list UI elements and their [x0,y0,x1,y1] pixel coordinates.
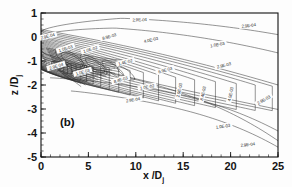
svg-text:1.4E-02: 1.4E-02 [118,58,134,66]
x-tick-label: 0 [38,160,44,172]
y-tick-label: -4 [27,127,38,139]
contour-label: 1.0E-03 [207,40,227,49]
contour-label: 4.0E-03 [141,35,161,45]
svg-text:2.9E-04: 2.9E-04 [241,22,257,29]
svg-text:4.0E-03: 4.0E-03 [143,36,159,44]
contour-label: 2.9E-04 [130,16,149,22]
svg-text:8.4E-03: 8.4E-03 [113,75,129,84]
contour-label: 2.9E-04 [238,141,258,148]
plot-frame [41,13,278,157]
svg-text:2.9E-04: 2.9E-04 [240,141,256,148]
contour-label: 1.0E-03 [213,122,233,130]
contour-label: 2.9E-04 [239,21,259,29]
x-tick-label: 15 [177,160,189,172]
svg-text:8.9E-03: 8.9E-03 [102,32,118,41]
svg-text:x /Dj: x /Dj [143,169,164,184]
y-tick-label: 0 [31,31,37,43]
y-tick-label: -1 [27,55,37,67]
contour-label: 2.9E-03 [214,60,234,70]
svg-text:z /Dj: z /Dj [8,75,23,96]
contour-line [41,28,292,56]
contour-figure: 0510152025-5-4-3-2-101x /Djz /Dj(b)2.9E-… [0,0,292,187]
contour-line [41,18,292,37]
svg-text:2.9E-03: 2.9E-03 [216,61,232,69]
contour-label: 2.9E-03 [175,80,184,100]
y-tick-label: -3 [27,103,37,115]
contour-line [41,50,292,151]
x-tick-label: 5 [85,160,91,172]
panel-label: (b) [60,116,75,128]
contour-plot-canvas: 0510152025-5-4-3-2-101x /Djz /Dj(b)2.9E-… [0,0,292,187]
svg-text:1.0E-03: 1.0E-03 [210,41,226,49]
contour-label: 8.4E-03 [198,83,207,103]
contour-label: 4.0E-03 [226,84,235,104]
x-axis-title: x /Dj [143,169,164,184]
svg-text:4.0E-03: 4.0E-03 [227,86,235,102]
contour-label: 2.9E-04 [123,95,143,104]
contour-label: 2.9E-03 [254,93,273,107]
svg-text:2.9E-03: 2.9E-03 [256,94,272,106]
contour-label: 8.9E-03 [99,31,119,41]
svg-text:1.0E-03: 1.0E-03 [216,123,232,130]
y-tick-label: -5 [27,151,37,163]
y-tick-label: 1 [31,7,37,19]
svg-text:2.9E-04: 2.9E-04 [132,17,147,23]
y-tick-label: -2 [27,79,37,91]
svg-text:6.9E-03: 6.9E-03 [158,66,174,75]
svg-text:2.9E-04: 2.9E-04 [125,96,141,104]
y-axis-title: z /Dj [8,75,23,96]
x-tick-label: 25 [272,160,284,172]
svg-text:8.4E-03: 8.4E-03 [199,85,207,101]
x-tick-label: 20 [224,160,236,172]
x-tick-label: 10 [130,160,142,172]
